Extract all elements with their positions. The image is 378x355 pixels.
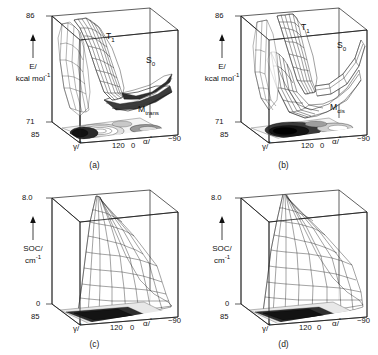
panel-b: 86 71 85 120 0 −90 γ/° α/° E/ kcal mol-1… [189, 0, 378, 177]
y-tick-top-a: 86 [26, 11, 34, 20]
energy-axis-arrow-b [219, 34, 225, 58]
z-tick-near-a: 0 [131, 141, 135, 150]
z-tick-near-d: 0 [317, 323, 321, 332]
y-axis-label-sup-b: -1 [234, 72, 239, 78]
energy-axis-arrow-a [30, 34, 36, 58]
z-tick-far-d: −90 [357, 316, 370, 325]
panel-c: 8.0 0 85 120 0 −90 γ/° α/° SOC/ cm-1 (c) [0, 178, 189, 355]
x-tick-right-d: 120 [299, 323, 312, 332]
x-tick-left-b: 85 [220, 130, 228, 139]
z-axis-name-a: α/° [143, 135, 152, 146]
y-tick-bottom-a: 71 [26, 117, 34, 126]
surface-label-s0-a: S0 [146, 55, 155, 67]
z-axis-name-b: α/° [332, 135, 341, 146]
x-tick-left-a: 85 [31, 130, 39, 139]
y-axis-label-b: E/ kcal mol-1 [191, 62, 253, 84]
x-axis-name-d: γ/° [262, 322, 271, 333]
x-axis-unit-a: ° [79, 140, 81, 146]
y-tick-bottom-b: 71 [215, 117, 223, 126]
x-tick-left-d: 85 [220, 312, 228, 321]
y-axis-label-line2-d: cm [214, 256, 225, 265]
z-tick-far-c: −90 [168, 316, 181, 325]
x-tick-right-b: 120 [301, 141, 314, 150]
y-axis-label-a: E/ kcal mol-1 [2, 62, 64, 84]
y-tick-top-b: 86 [215, 11, 223, 20]
y-axis-label-line1-c: SOC/ [23, 244, 43, 253]
panel-c-plot [0, 178, 189, 355]
z-tick-far-a: −90 [168, 134, 181, 143]
z-axis-name-c: α/° [143, 317, 152, 328]
panel-d-plot [189, 178, 378, 355]
y-axis-label-sup-c: -1 [36, 254, 41, 260]
soc-surface-d [263, 194, 363, 317]
y-tick-bottom-d: 0 [225, 299, 229, 308]
y-axis-label-d: SOC/ cm-1 [191, 244, 253, 266]
x-tick-left-c: 85 [31, 312, 39, 321]
surface-label-m-a: Mtrans [138, 104, 159, 116]
y-tick-bottom-c: 0 [36, 299, 40, 308]
y-axis-label-sup-a: -1 [45, 72, 50, 78]
y-axis-label-line2-a: kcal mol [16, 74, 45, 83]
z-axis-name-text-a: α/ [143, 137, 150, 146]
y-axis-label-line2-c: cm [25, 256, 36, 265]
figure-multi-panel-surface-plots: 86 71 85 120 0 −90 γ/° α/° E/ kcal mol-1… [0, 0, 378, 355]
x-axis-name-b: γ/° [262, 140, 271, 151]
panel-caption-d: (d) [189, 339, 378, 349]
y-axis-label-line1-d: SOC/ [212, 244, 232, 253]
panel-d: 8.0 0 85 120 0 −90 γ/° α/° SOC/ cm-1 (d) [189, 178, 378, 355]
z-axis-name-d: α/° [332, 317, 341, 328]
y-tick-top-d: 8.0 [211, 193, 222, 202]
z-axis-unit-d: ° [339, 317, 341, 323]
z-axis-name-text-b: α/ [332, 137, 339, 146]
y-tick-top-c: 8.0 [22, 193, 33, 202]
y-axis-label-line1-a: E/ [29, 62, 37, 71]
x-axis-name-a: γ/° [73, 140, 82, 151]
panel-caption-a: (a) [0, 160, 189, 170]
left-wall-mesh-b [253, 20, 279, 110]
z-tick-far-b: −90 [357, 134, 370, 143]
x-axis-unit-d: ° [268, 322, 270, 328]
surface-label-m-b: Mcis [330, 102, 345, 114]
soc-axis-arrow-c [30, 216, 36, 240]
z-axis-name-text-c: α/ [143, 319, 150, 328]
surface-label-t1-a: T1 [106, 31, 115, 43]
x-tick-right-c: 120 [110, 323, 123, 332]
y-axis-label-c: SOC/ cm-1 [2, 244, 64, 266]
y-axis-label-sup-d: -1 [225, 254, 230, 260]
panel-caption-b: (b) [189, 160, 378, 170]
z-axis-unit-a: ° [150, 135, 152, 141]
surface-label-s0-b: S0 [337, 40, 346, 52]
x-axis-unit-c: ° [79, 322, 81, 328]
y-axis-label-line1-b: E/ [218, 62, 226, 71]
surface-label-t1-b: T1 [301, 22, 310, 34]
panel-caption-c: (c) [0, 339, 189, 349]
z-tick-near-c: 0 [130, 323, 134, 332]
y-axis-label-line2-b: kcal mol [205, 74, 234, 83]
panel-a-plot [0, 0, 189, 177]
z-axis-name-text-d: α/ [332, 319, 339, 328]
x-tick-right-a: 120 [112, 141, 125, 150]
z-axis-unit-b: ° [339, 135, 341, 141]
x-axis-unit-b: ° [268, 140, 270, 146]
x-axis-name-c: γ/° [73, 322, 82, 333]
soc-axis-arrow-d [219, 216, 225, 240]
panel-b-plot [189, 0, 378, 177]
z-tick-near-b: 0 [320, 141, 324, 150]
z-axis-unit-c: ° [150, 317, 152, 323]
panel-a: 86 71 85 120 0 −90 γ/° α/° E/ kcal mol-1… [0, 0, 189, 177]
